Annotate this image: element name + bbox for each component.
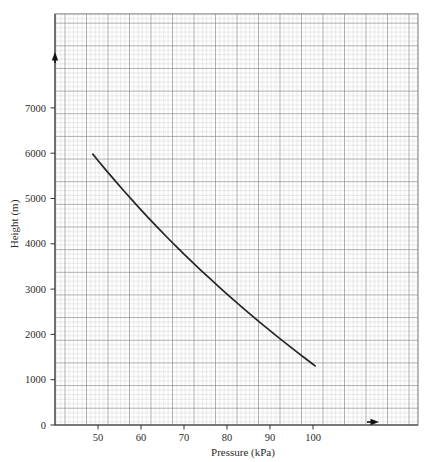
plot-area (55, 14, 418, 425)
y-tick-label-0: 0 (41, 420, 46, 431)
y-tick-label-6000: 6000 (25, 148, 46, 159)
x-axis-title: Pressure (kPa) (211, 446, 275, 459)
graph-paper-grid (55, 14, 418, 425)
y-tick-label-3000: 3000 (25, 284, 46, 295)
y-axis-title: Height (m) (8, 199, 21, 248)
y-tick-label-5000: 5000 (25, 193, 46, 204)
x-tick-label-90: 90 (265, 432, 276, 443)
y-tick-label-1000: 1000 (25, 374, 46, 385)
x-tick-label-70: 70 (179, 432, 190, 443)
x-tick-label-60: 60 (136, 432, 147, 443)
x-tick-label-80: 80 (222, 432, 233, 443)
y-tick-label-4000: 4000 (25, 238, 46, 249)
y-tick-label-7000: 7000 (25, 103, 46, 114)
x-tick-label-100: 100 (305, 432, 321, 443)
chart-svg: 50 60 70 80 90 100 Pressure (kPa) 0 1000… (0, 0, 438, 462)
y-tick-label-2000: 2000 (25, 329, 46, 340)
x-tick-label-50: 50 (93, 432, 104, 443)
pressure-height-chart-figure: 50 60 70 80 90 100 Pressure (kPa) 0 1000… (0, 0, 438, 462)
